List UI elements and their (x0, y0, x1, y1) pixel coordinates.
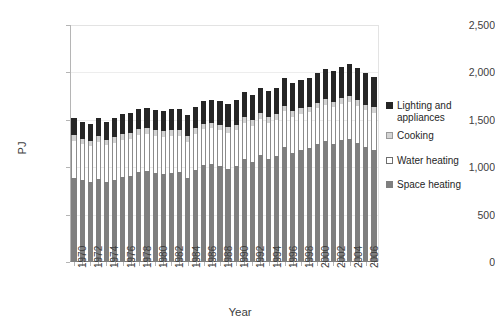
bar-segment-water-heating (331, 107, 336, 143)
bar-1989[interactable] (225, 104, 230, 262)
bar-1982[interactable] (169, 109, 174, 262)
bar-1973[interactable] (96, 118, 101, 262)
legend-item-water-heating[interactable]: Water heating (386, 155, 494, 167)
x-tick-mark (123, 262, 124, 266)
bar-1995[interactable] (274, 88, 279, 262)
legend-marker-icon (386, 102, 393, 109)
bar-segment-space-heating (355, 143, 360, 262)
bar-1977[interactable] (128, 113, 133, 262)
legend-label: Cooking (397, 130, 434, 142)
x-tick-label: 1982 (175, 246, 185, 268)
bar-segment-lighting-and-appliances (161, 111, 166, 131)
x-tick-mark (74, 262, 75, 266)
x-tick-mark (252, 262, 253, 266)
bar-segment-water-heating (217, 130, 222, 166)
legend-item-cooking[interactable]: Cooking (386, 130, 494, 142)
bar-segment-lighting-and-appliances (112, 118, 117, 137)
bar-1986[interactable] (201, 101, 206, 262)
bar-1979[interactable] (144, 108, 149, 263)
bar-1990[interactable] (234, 100, 239, 262)
bar-segment-lighting-and-appliances (201, 101, 206, 123)
bar-segment-lighting-and-appliances (177, 109, 182, 130)
bar-1971[interactable] (80, 122, 85, 262)
x-tick-mark (204, 262, 205, 266)
bar-segment-lighting-and-appliances (331, 71, 336, 102)
bar-segment-water-heating (290, 117, 295, 153)
x-tick-label: 1972 (94, 246, 104, 268)
bar-1992[interactable] (250, 95, 255, 262)
bar-segment-water-heating (169, 136, 174, 173)
bar-1972[interactable] (88, 124, 93, 262)
bar-segment-water-heating (274, 120, 279, 156)
bar-1970[interactable] (71, 118, 76, 262)
bar-1993[interactable] (258, 88, 263, 262)
bar-segment-water-heating (112, 143, 117, 180)
x-tick-label: 2006 (370, 246, 380, 268)
x-tick-label: 1994 (273, 246, 283, 268)
bar-2004[interactable] (347, 64, 352, 262)
bar-segment-space-heating (331, 144, 336, 263)
bar-1974[interactable] (104, 122, 109, 262)
bar-1994[interactable] (266, 91, 271, 262)
bar-2000[interactable] (315, 73, 320, 262)
bar-1999[interactable] (307, 78, 312, 262)
bar-segment-water-heating (371, 113, 376, 150)
y-tick-label: 2,500 (431, 20, 495, 30)
bar-1985[interactable] (193, 107, 198, 262)
legend-label: Water heating (397, 155, 459, 167)
x-tick-label: 1976 (127, 246, 137, 268)
bar-2006[interactable] (363, 73, 368, 262)
bar-2005[interactable] (355, 68, 360, 262)
bar-1991[interactable] (242, 92, 247, 262)
bar-1981[interactable] (161, 111, 166, 262)
x-tick-mark (301, 262, 302, 266)
bar-segment-lighting-and-appliances (217, 101, 222, 124)
bar-1978[interactable] (136, 109, 141, 262)
bar-segment-water-heating (104, 145, 109, 182)
bar-segment-water-heating (185, 142, 190, 178)
bar-segment-lighting-and-appliances (298, 80, 303, 108)
bar-segment-water-heating (234, 130, 239, 166)
bar-segment-lighting-and-appliances (209, 100, 214, 123)
bar-segment-water-heating (161, 137, 166, 174)
bar-segment-space-heating (136, 172, 141, 262)
plot-border-right (378, 25, 379, 262)
bar-1984[interactable] (185, 115, 190, 262)
bar-1987[interactable] (209, 100, 214, 262)
bar-2001[interactable] (323, 69, 328, 262)
bar-1998[interactable] (298, 80, 303, 262)
bar-segment-lighting-and-appliances (96, 118, 101, 136)
bar-2002[interactable] (331, 71, 336, 262)
bar-segment-space-heating (185, 178, 190, 262)
bar-segment-space-heating (347, 139, 352, 262)
bar-segment-space-heating (339, 140, 344, 262)
bar-1980[interactable] (153, 110, 158, 262)
x-tick-label: 1992 (256, 246, 266, 268)
legend-label: Lighting and appliances (397, 100, 494, 123)
bar-segment-water-heating (323, 105, 328, 141)
bar-segment-water-heating (88, 146, 93, 182)
x-tick-label: 1974 (110, 246, 120, 268)
bar-1996[interactable] (282, 78, 287, 262)
legend-item-space-heating[interactable]: Space heating (386, 179, 494, 191)
bar-segment-water-heating (209, 128, 214, 164)
bar-2003[interactable] (339, 67, 344, 262)
bar-1975[interactable] (112, 118, 117, 262)
legend-item-lighting-and-appliances[interactable]: Lighting and appliances (386, 100, 494, 123)
x-tick-mark (106, 262, 107, 266)
bar-1988[interactable] (217, 101, 222, 262)
bar-1983[interactable] (177, 109, 182, 262)
bar-segment-lighting-and-appliances (104, 122, 109, 140)
x-tick-mark (155, 262, 156, 266)
x-tick-mark (220, 262, 221, 266)
bar-1976[interactable] (120, 114, 125, 262)
chart-legend: Lighting and appliancesCookingWater heat… (386, 100, 494, 198)
x-tick-label: 1990 (240, 246, 250, 268)
bar-segment-lighting-and-appliances (258, 88, 263, 114)
y-axis-title: PJ (16, 118, 28, 178)
bar-segment-water-heating (250, 126, 255, 162)
bar-1997[interactable] (290, 83, 295, 262)
x-tick-label: 1980 (159, 246, 169, 268)
bar-2007[interactable] (371, 77, 376, 262)
bar-segment-water-heating (266, 123, 271, 159)
